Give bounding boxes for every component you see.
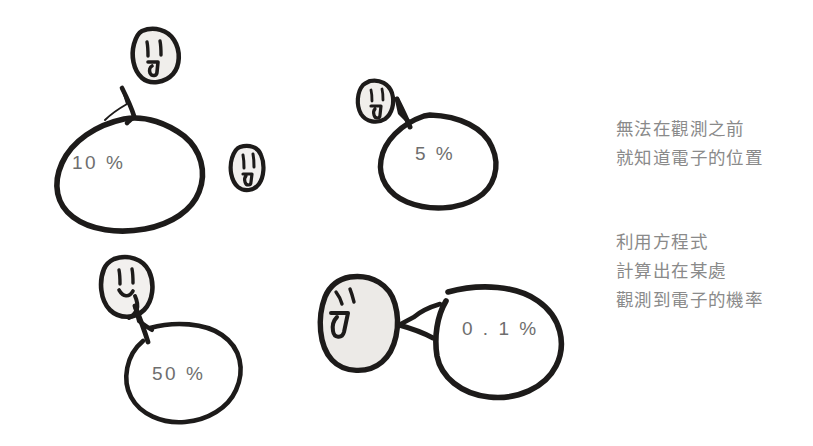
caption-lower: 利用方程式 計算出在某處 觀測到電子的機率 xyxy=(616,228,763,315)
bubble-01-shape xyxy=(399,287,561,398)
face-lower-left-icon xyxy=(101,257,152,318)
caption-upper: 無法在觀測之前 就知道電子的位置 xyxy=(616,115,763,173)
ink-drawing-layer xyxy=(0,0,813,446)
bubble-50-label: 50 % xyxy=(152,363,205,385)
caption-lower-line-2: 計算出在某處 xyxy=(616,257,763,286)
bubble-10-label: 10 % xyxy=(72,152,125,174)
illustration-canvas: 10 % 5 % 50 % 0 . 1 % 無法在觀測之前 就知道電子的位置 利… xyxy=(0,0,813,446)
caption-upper-line-2: 就知道電子的位置 xyxy=(616,144,763,173)
caption-upper-line-1: 無法在觀測之前 xyxy=(616,115,763,144)
caption-lower-line-3: 觀測到電子的機率 xyxy=(616,286,763,315)
bubble-5-label: 5 % xyxy=(415,143,455,165)
caption-lower-line-1: 利用方程式 xyxy=(616,228,763,257)
bubble-01-label: 0 . 1 % xyxy=(462,318,539,340)
face-lower-right-icon xyxy=(320,277,397,371)
face-top-left-icon xyxy=(133,29,179,82)
face-middle-small-icon xyxy=(231,146,264,190)
face-upper-right-icon xyxy=(358,81,393,122)
